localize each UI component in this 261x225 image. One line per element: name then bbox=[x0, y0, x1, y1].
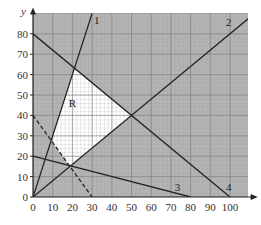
y-tick-label: 10 bbox=[17, 171, 29, 183]
x-tick-label: 70 bbox=[165, 201, 177, 213]
line-label-2: 2 bbox=[226, 16, 232, 28]
y-tick-label: 80 bbox=[17, 28, 29, 40]
y-arrow-icon bbox=[30, 7, 36, 14]
linear-programming-chart: 010203040506070809010001020304050607080x… bbox=[0, 0, 261, 225]
x-tick-label: 20 bbox=[67, 201, 79, 213]
y-tick-label: 70 bbox=[17, 48, 29, 60]
x-tick-label: 50 bbox=[126, 201, 138, 213]
x-tick-label: 80 bbox=[185, 201, 197, 213]
x-tick-label: 100 bbox=[222, 201, 239, 213]
x-tick-label: 40 bbox=[106, 201, 118, 213]
region-label: R bbox=[69, 97, 77, 109]
x-tick-label: 90 bbox=[205, 201, 217, 213]
y-tick-label: 60 bbox=[17, 69, 29, 81]
y-tick-label: 30 bbox=[17, 130, 29, 142]
y-axis-label: y bbox=[20, 5, 26, 17]
line-label-3: 3 bbox=[175, 181, 181, 193]
line-label-1: 1 bbox=[94, 14, 100, 26]
y-tick-label: 20 bbox=[17, 150, 29, 162]
line-label-4: 4 bbox=[226, 181, 232, 193]
x-tick-label: 30 bbox=[87, 201, 99, 213]
x-tick-label: 0 bbox=[30, 201, 36, 213]
y-tick-label: 0 bbox=[23, 191, 29, 203]
x-tick-label: 10 bbox=[47, 201, 59, 213]
x-tick-label: 60 bbox=[146, 201, 158, 213]
plot-area bbox=[33, 13, 250, 197]
x-arrow-icon bbox=[251, 194, 258, 200]
y-tick-label: 40 bbox=[17, 109, 29, 121]
y-tick-label: 50 bbox=[17, 89, 29, 101]
